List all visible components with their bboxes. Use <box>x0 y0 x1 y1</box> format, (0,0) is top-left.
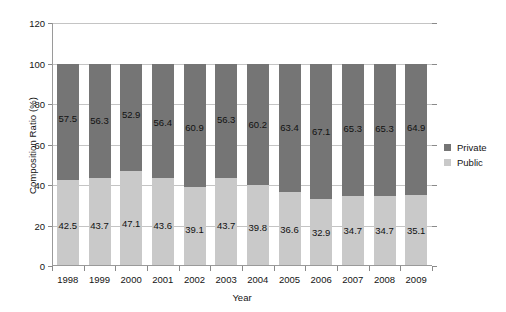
y-tick-label: 0 <box>40 261 45 272</box>
x-tick-label: 2008 <box>374 274 395 285</box>
x-tick-mark <box>242 266 243 271</box>
x-axis-spine <box>52 265 432 266</box>
x-tick-label: 2001 <box>152 274 173 285</box>
plot-area: 020406080100120 57.542.556.343.752.947.1… <box>52 23 432 266</box>
stacked-bar-chart: Composition Ratio (%) 020406080100120 57… <box>0 0 506 312</box>
y-tick-mark-right <box>432 23 437 24</box>
y-tick-label: 20 <box>34 220 45 231</box>
bar-group[interactable]: 64.935.1 <box>405 23 427 266</box>
x-tick-mark <box>432 266 433 271</box>
bar-segment-public[interactable] <box>279 192 301 266</box>
bar-segment-private[interactable] <box>374 64 396 196</box>
bar-segment-public[interactable] <box>184 187 206 266</box>
bar-segment-private[interactable] <box>247 64 269 186</box>
bar-segment-public[interactable] <box>405 195 427 266</box>
bar-segment-public[interactable] <box>120 171 142 266</box>
x-tick-label: 2005 <box>279 274 300 285</box>
bar-segment-public[interactable] <box>215 178 237 266</box>
y-tick-label: 60 <box>34 139 45 150</box>
bar-segment-private[interactable] <box>310 64 332 200</box>
bar-segment-private[interactable] <box>215 64 237 178</box>
bar-segment-public[interactable] <box>57 180 79 266</box>
bar-segment-private[interactable] <box>184 64 206 187</box>
x-tick-label: 1999 <box>89 274 110 285</box>
x-tick-label: 1998 <box>57 274 78 285</box>
bar-segment-public[interactable] <box>374 196 396 266</box>
y-tick-label: 80 <box>34 99 45 110</box>
y-axis-spine <box>52 23 53 266</box>
bar-group[interactable]: 60.239.8 <box>247 23 269 266</box>
bar-segment-private[interactable] <box>279 64 301 192</box>
legend: PrivatePublic <box>444 140 487 170</box>
bar-segment-private[interactable] <box>152 64 174 178</box>
bar-group[interactable]: 60.939.1 <box>184 23 206 266</box>
y-tick-mark-right <box>432 145 437 146</box>
bar-segment-private[interactable] <box>120 64 142 171</box>
x-tick-mark <box>274 266 275 271</box>
bar-segment-public[interactable] <box>247 185 269 266</box>
bar-segment-private[interactable] <box>89 64 111 178</box>
bar-group[interactable]: 56.343.7 <box>89 23 111 266</box>
x-tick-mark <box>369 266 370 271</box>
y-tick-label: 100 <box>29 58 45 69</box>
bar-group[interactable]: 67.132.9 <box>310 23 332 266</box>
bar-segment-public[interactable] <box>152 178 174 266</box>
bar-group[interactable]: 65.334.7 <box>342 23 364 266</box>
x-tick-mark <box>210 266 211 271</box>
bar-segment-private[interactable] <box>342 64 364 196</box>
legend-swatch-icon <box>444 159 451 166</box>
bar-group[interactable]: 63.436.6 <box>279 23 301 266</box>
x-tick-mark <box>337 266 338 271</box>
bar-group[interactable]: 52.947.1 <box>120 23 142 266</box>
x-tick-mark <box>115 266 116 271</box>
y-tick-mark-right <box>432 226 437 227</box>
x-tick-label: 2009 <box>406 274 427 285</box>
y-tick-label: 40 <box>34 180 45 191</box>
x-tick-mark <box>84 266 85 271</box>
x-tick-label: 2000 <box>121 274 142 285</box>
legend-item[interactable]: Public <box>444 155 487 170</box>
bar-group[interactable]: 56.343.7 <box>215 23 237 266</box>
x-axis-title: Year <box>52 292 432 303</box>
legend-label: Public <box>457 157 483 168</box>
bar-segment-private[interactable] <box>405 64 427 195</box>
legend-swatch-icon <box>444 144 451 151</box>
y-tick-label: 120 <box>29 18 45 29</box>
bar-segment-public[interactable] <box>89 178 111 266</box>
bar-segment-private[interactable] <box>57 64 79 180</box>
bar-group[interactable]: 57.542.5 <box>57 23 79 266</box>
x-tick-mark <box>147 266 148 271</box>
y-tick-mark-right <box>432 104 437 105</box>
y-tick-mark-right <box>432 185 437 186</box>
x-tick-label: 2006 <box>311 274 332 285</box>
x-tick-label: 2002 <box>184 274 205 285</box>
x-tick-mark <box>179 266 180 271</box>
legend-item[interactable]: Private <box>444 140 487 155</box>
bar-segment-public[interactable] <box>342 196 364 266</box>
x-tick-mark <box>52 266 53 271</box>
y-tick-mark-right <box>432 64 437 65</box>
bar-group[interactable]: 65.334.7 <box>374 23 396 266</box>
x-tick-mark <box>400 266 401 271</box>
x-tick-label: 2004 <box>247 274 268 285</box>
legend-label: Private <box>457 142 487 153</box>
x-tick-label: 2007 <box>342 274 363 285</box>
bar-group[interactable]: 56.443.6 <box>152 23 174 266</box>
x-tick-mark <box>305 266 306 271</box>
bar-segment-public[interactable] <box>310 199 332 266</box>
x-tick-label: 2003 <box>216 274 237 285</box>
